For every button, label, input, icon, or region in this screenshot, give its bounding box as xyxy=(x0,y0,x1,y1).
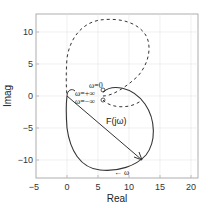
nyquist-chart: −5 0 5 10 15 20 10 5 0 −5 −10 Real Imag … xyxy=(0,0,208,208)
y-tick-label: −5 xyxy=(23,123,33,133)
y-tick-label: −10 xyxy=(18,155,33,165)
x-tick-label: 5 xyxy=(95,182,100,192)
x-tick-label: 20 xyxy=(186,182,196,192)
y-tick-label: 5 xyxy=(28,59,33,69)
x-axis-label: Real xyxy=(107,193,128,204)
x-tick-label: −5 xyxy=(29,182,39,192)
y-tick-labels: 10 5 0 −5 −10 xyxy=(18,27,33,165)
omega-neg-inf-label: ω=−∞ xyxy=(75,97,95,106)
x-tick-label: 10 xyxy=(124,182,134,192)
y-tick-label: 0 xyxy=(28,91,33,101)
y-axis-label: Imag xyxy=(2,85,13,107)
x-tick-labels: −5 0 5 10 15 20 xyxy=(29,182,196,192)
vector-label: F(jω) xyxy=(106,116,127,126)
direction-label: ← ω xyxy=(114,168,129,177)
x-tick-label: 0 xyxy=(64,182,69,192)
x-tick-label: 15 xyxy=(155,182,165,192)
y-tick-label: 10 xyxy=(23,27,33,37)
